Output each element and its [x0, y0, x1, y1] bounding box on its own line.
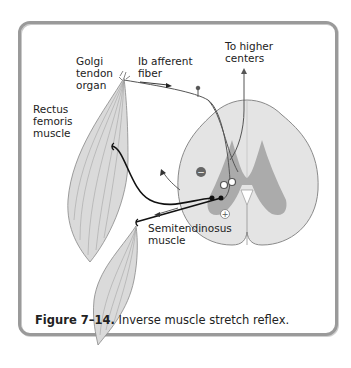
label-line: Golgi: [76, 55, 113, 67]
label-line: centers: [225, 52, 273, 64]
label-line: Semitendinosus: [148, 222, 232, 234]
figure-caption-text: Inverse muscle stretch reflex.: [118, 313, 289, 327]
golgi-tendon-organ-label: Golgi tendon organ: [76, 55, 113, 91]
label-line: Ib afferent: [138, 55, 193, 67]
figure-number: Figure 7–14.: [35, 313, 115, 327]
label-line: organ: [76, 79, 113, 91]
label-line: To higher: [225, 40, 273, 52]
label-line: muscle: [33, 127, 73, 139]
semitendinosus-label: Semitendinosus muscle: [148, 222, 232, 246]
excitatory-symbol: +: [222, 210, 229, 219]
inhibitory-symbol: −: [197, 167, 205, 177]
arrow-up-icon: [241, 68, 247, 74]
label-line: tendon: [76, 67, 113, 79]
rectus-femoris-muscle: [68, 78, 128, 262]
label-line: fiber: [138, 67, 193, 79]
label-line: femoris: [33, 115, 73, 127]
rectus-femoris-label: Rectus femoris muscle: [33, 103, 73, 139]
ib-afferent-fiber-label: Ib afferent fiber: [138, 55, 193, 79]
label-line: Rectus: [33, 103, 73, 115]
to-higher-centers-label: To higher centers: [225, 40, 273, 64]
label-line: muscle: [148, 234, 232, 246]
interneuron-icon: [221, 182, 228, 189]
interneuron-icon: [229, 179, 236, 186]
arrow-right-icon: [166, 83, 172, 88]
figure-caption: Figure 7–14. Inverse muscle stretch refl…: [35, 313, 289, 327]
golgi-tendon-organ-icon: [119, 71, 130, 80]
